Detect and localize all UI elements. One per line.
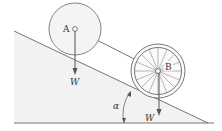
label-weight-b: W: [145, 113, 155, 123]
label-weight-a: W: [70, 77, 80, 87]
pin-a-icon: [73, 27, 78, 32]
label-a: A: [62, 24, 70, 34]
label-b: B: [165, 62, 172, 72]
incline-diagram: A W B W α: [0, 0, 222, 131]
pin-b-icon: [156, 69, 161, 74]
label-alpha: α: [113, 101, 119, 111]
